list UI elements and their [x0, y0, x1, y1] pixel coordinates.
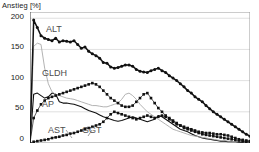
chart-container: Anstieg [%] 200 150 100 50 0 ALT GLDH AP…	[0, 0, 259, 152]
y-axis-label: Anstieg [%]	[2, 1, 41, 10]
series-label-ap: AP	[42, 99, 54, 109]
y-tick-label-100: 100	[2, 73, 24, 82]
y-tick-label-0: 0	[2, 134, 24, 143]
y-tick-label-150: 150	[2, 42, 24, 51]
series-label-alt: ALT	[46, 24, 62, 34]
series-label-ggt: GGT	[82, 125, 102, 135]
y-tick-label-200: 200	[2, 12, 24, 21]
series-label-gldh: GLDH	[42, 68, 67, 78]
series-label-ast: AST	[48, 125, 66, 135]
y-tick-label-50: 50	[2, 103, 24, 112]
